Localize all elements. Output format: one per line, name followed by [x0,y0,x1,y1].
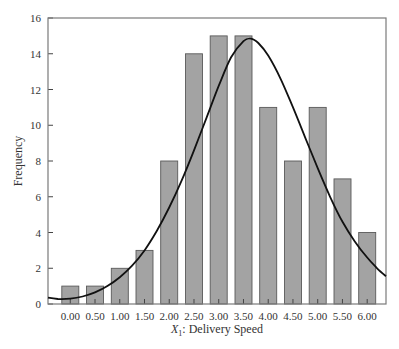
x-tick-label: 2.50 [184,310,204,322]
x-tick-label: 3.50 [234,310,254,322]
x-tick-label: 5.00 [308,310,328,322]
x-axis-title: X1: Delivery Speed [170,322,263,338]
y-axis-ticks: 0246810121416 [30,12,53,310]
histogram-bar [235,36,252,304]
y-axis-title: Frequency [11,136,25,187]
x-axis-ticks: 0.000.501.001.502.002.503.003.504.004.50… [61,299,378,322]
x-tick-label: 4.00 [259,310,279,322]
histogram-bar [210,36,227,304]
y-tick-label: 12 [30,84,41,96]
histogram-bar [186,54,203,304]
y-tick-label: 0 [36,298,42,310]
y-tick-label: 6 [36,191,42,203]
x-tick-label: 6.00 [358,310,378,322]
histogram-bar [359,233,376,305]
histogram-chart: 0.000.501.001.502.002.503.003.504.004.50… [0,0,399,349]
x-axis-title-text: : Delivery Speed [182,322,263,336]
x-tick-label: 5.50 [333,310,353,322]
x-tick-label: 0.50 [85,310,105,322]
x-tick-label: 1.00 [110,310,130,322]
x-tick-label: 1.50 [135,310,155,322]
x-tick-label: 2.00 [160,310,180,322]
x-tick-label: 0.00 [61,310,81,322]
histogram-bars [62,36,376,304]
histogram-bar [334,179,351,304]
histogram-bar [111,268,128,304]
x-tick-label: 4.50 [283,310,303,322]
x-tick-label: 3.00 [209,310,229,322]
y-tick-label: 4 [36,227,42,239]
y-tick-label: 10 [30,119,42,131]
y-tick-label: 2 [36,262,42,274]
histogram-bar [260,107,277,304]
y-tick-label: 8 [36,155,42,167]
y-tick-label: 14 [30,48,42,60]
histogram-bar [285,161,302,304]
y-tick-label: 16 [30,12,42,24]
histogram-bar [309,107,326,304]
histogram-bar [161,161,178,304]
